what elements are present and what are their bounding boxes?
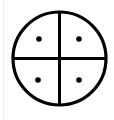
dot-bottom-left: [35, 77, 41, 83]
quartered-circle-icon: [0, 0, 114, 120]
dot-top-left: [36, 36, 42, 42]
dot-bottom-right: [76, 77, 82, 83]
dot-top-right: [76, 36, 82, 42]
